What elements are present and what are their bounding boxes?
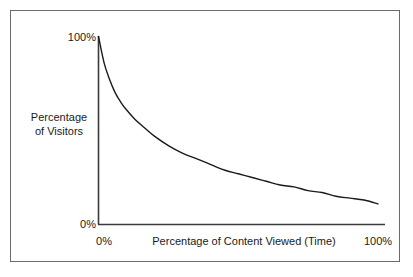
y-axis-title-line-1: Percentage	[31, 111, 87, 123]
x-axis-min-label: 0%	[90, 235, 118, 248]
y-axis-title: Percentage of Visitors	[22, 110, 96, 138]
y-axis-title-line-2: of Visitors	[35, 125, 83, 137]
y-axis-max-label: 100%	[54, 31, 96, 44]
x-axis-title: Percentage of Content Viewed (Time)	[133, 235, 355, 248]
x-axis-max-label: 100%	[360, 235, 396, 248]
y-axis-min-label: 0%	[54, 218, 96, 231]
